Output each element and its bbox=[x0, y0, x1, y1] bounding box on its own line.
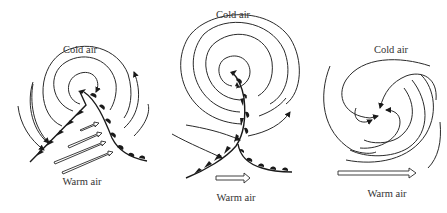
panel-3-warm-air-label: Warm air bbox=[367, 189, 406, 200]
panel-2-cold-air-label: Cold air bbox=[216, 10, 250, 21]
panel-1-cold-front bbox=[30, 89, 86, 162]
panel-2-warm-air-label: Warm air bbox=[216, 193, 255, 204]
panel-1-cold-air-label: Cold air bbox=[63, 45, 97, 56]
panel-1-warm-air-label: Warm air bbox=[62, 177, 101, 188]
panel-3-cold-air-label: Cold air bbox=[374, 45, 408, 56]
cyclone-occlusion-diagram: Cold air Warm air Cold air Warm air Cold… bbox=[0, 0, 447, 213]
panel-3-warm-sector-arrow bbox=[338, 168, 416, 178]
panel-2-warm-sector-arrow bbox=[216, 173, 250, 183]
panel-3-spiral-streamlines bbox=[324, 60, 441, 168]
panel-3-occluded bbox=[324, 60, 441, 178]
panel-1-warm-sector-arrows bbox=[54, 122, 113, 174]
panel-2-occluding bbox=[172, 15, 299, 183]
panel-1-open-wave bbox=[18, 46, 149, 174]
